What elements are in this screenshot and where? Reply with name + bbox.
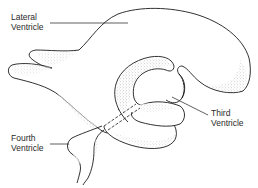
label-third-line2: Ventricle: [211, 119, 244, 129]
label-fourth-ventricle: Fourth Ventricle: [11, 134, 44, 153]
fourth-ventricle-shape: [68, 126, 105, 185]
label-lateral-line2: Ventricle: [11, 23, 44, 33]
label-third-ventricle: Third Ventricle: [211, 109, 244, 128]
label-fourth-line2: Ventricle: [11, 144, 44, 154]
label-lateral-ventricle: Lateral Ventricle: [11, 13, 44, 32]
